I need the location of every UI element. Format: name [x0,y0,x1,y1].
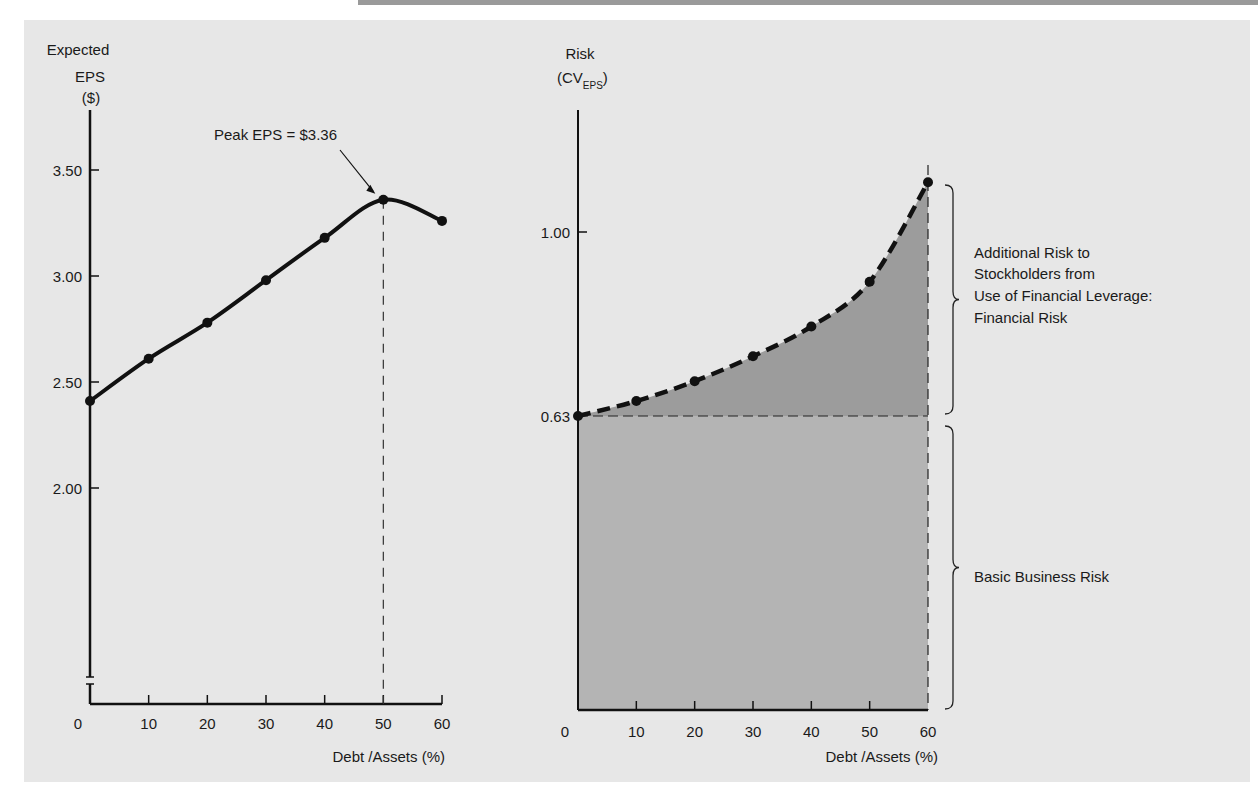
eps-x-tick-label: 30 [258,715,275,732]
business-risk-label: Basic Business Risk [974,568,1110,585]
financial-risk-label-1: Additional Risk to [974,244,1090,261]
risk-x-tick-label: 10 [628,723,645,740]
risk-chart: Risk (CVEPS) Debt /Assets (%) Additional… [541,45,1153,765]
risk-x-tick-label: 40 [803,723,820,740]
risk-x-tick-label: 0 [561,723,569,740]
eps-x-tick-label: 0 [74,715,82,732]
eps-x-tick-label: 50 [375,715,392,732]
risk-data-point [631,396,641,406]
eps-xlabel: Debt /Assets (%) [332,748,445,765]
eps-ylabel-line-1: Expected [47,41,110,58]
risk-ylabel-cv: (CVEPS) [557,69,608,91]
peak-arrow [340,150,373,192]
financial-risk-label-3: Use of Financial Leverage: [974,287,1152,304]
financial-risk-brace [945,185,959,414]
risk-data-point [573,411,583,421]
eps-x-tick-label: 10 [140,715,157,732]
risk-ylabel-sub: EPS [583,80,603,91]
peak-eps-annotation: Peak EPS = $3.36 [214,126,337,143]
eps-y-tick-label: 3.50 [53,162,82,179]
eps-x-tick-label: 60 [434,715,451,732]
eps-x-tick-label: 20 [199,715,216,732]
eps-ylabel-line-3: ($) [82,89,100,106]
eps-data-point [437,216,447,226]
eps-chart: Expected EPS ($) Debt /Assets (%) Peak E… [47,41,451,765]
risk-ylabel-close: ) [603,69,608,86]
business-risk-area [578,416,928,710]
risk-x-tick-label: 20 [686,723,703,740]
risk-y-tick-label: 1.00 [541,224,570,241]
financial-risk-area [578,182,928,416]
eps-y-tick-label: 2.50 [53,374,82,391]
business-risk-brace [945,426,959,709]
eps-data-point [378,195,388,205]
eps-x-tick-label: 40 [316,715,333,732]
peak-arrowhead [366,185,375,194]
eps-data-point [261,275,271,285]
risk-x-tick-label: 30 [745,723,762,740]
risk-ylabel: Risk [565,45,595,62]
eps-data-point [202,318,212,328]
financial-risk-label-2: Stockholders from [974,265,1095,282]
eps-y-tick-label: 3.00 [53,268,82,285]
risk-data-point [923,177,933,187]
risk-data-point [690,376,700,386]
risk-y-tick-label: 0.63 [541,408,570,425]
eps-ylabel-line-2: EPS [75,68,105,85]
eps-line [90,199,442,401]
eps-data-point [85,396,95,406]
risk-x-tick-label: 60 [920,723,937,740]
eps-data-point [320,233,330,243]
risk-ylabel-paren: (CV [557,69,583,86]
eps-y-tick-label: 2.00 [53,480,82,497]
risk-data-point [865,277,875,287]
risk-xlabel: Debt /Assets (%) [825,748,938,765]
risk-data-point [748,351,758,361]
financial-risk-label-4: Financial Risk [974,309,1068,326]
risk-x-tick-label: 50 [861,723,878,740]
risk-data-point [806,321,816,331]
eps-data-point [144,354,154,364]
figure-svg: Expected EPS ($) Debt /Assets (%) Peak E… [0,0,1258,804]
